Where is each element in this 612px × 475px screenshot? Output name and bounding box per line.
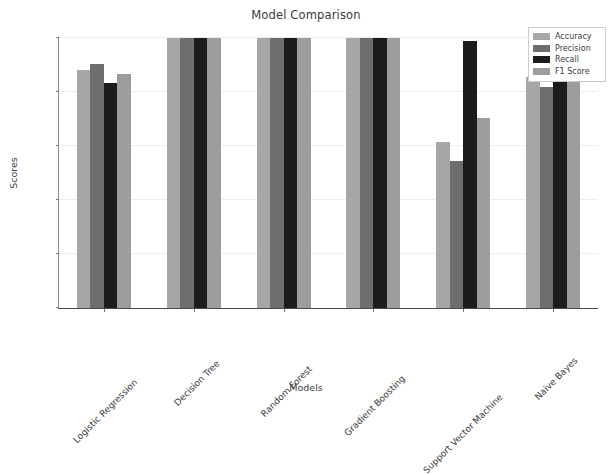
bar [540, 87, 554, 308]
grid-line [59, 37, 598, 38]
grid-line [59, 253, 598, 254]
y-axis-label: Scores [8, 157, 19, 189]
bar [180, 38, 194, 308]
bar [270, 38, 284, 308]
x-tick-mark [373, 309, 374, 313]
bar [346, 38, 360, 308]
bar [450, 161, 464, 308]
bar [77, 70, 91, 308]
bar [194, 38, 208, 308]
y-tick-mark [56, 307, 60, 308]
bar [477, 118, 491, 308]
legend-swatch-icon [533, 68, 550, 75]
x-axis-label: Models [0, 382, 612, 393]
bar [553, 74, 567, 308]
y-tick-mark [56, 253, 60, 254]
bar [387, 38, 401, 308]
legend-item: Accuracy [533, 31, 601, 42]
x-tick-mark [194, 309, 195, 313]
bar [436, 142, 450, 308]
legend-item: Precision [533, 43, 601, 54]
bar [90, 64, 104, 308]
x-tick-mark [553, 309, 554, 313]
grid-line [59, 145, 598, 146]
plot-area: 0.00.20.40.60.81.0 Scores [58, 38, 598, 309]
bar [117, 74, 131, 308]
bar [463, 41, 477, 308]
legend-item: F1 Score [533, 66, 601, 77]
legend-label: F1 Score [555, 66, 590, 77]
x-tick-mark [104, 309, 105, 313]
legend-label: Recall [555, 54, 579, 65]
legend-swatch-icon [533, 56, 550, 63]
bar [104, 83, 118, 308]
bar [373, 38, 387, 308]
chart-title: Model Comparison [0, 8, 612, 22]
grid-line [59, 199, 598, 200]
x-tick-label: Support Vector Machine [422, 392, 505, 475]
grid-line [59, 91, 598, 92]
y-tick-mark [56, 37, 60, 38]
x-tick-mark [284, 309, 285, 313]
x-tick-mark [463, 309, 464, 313]
y-tick-mark [56, 145, 60, 146]
bar [284, 38, 298, 308]
x-tick-label: Naive Bayes [533, 355, 579, 401]
bar [257, 38, 271, 308]
y-tick-mark [56, 199, 60, 200]
bar [526, 77, 540, 308]
bar [567, 80, 581, 308]
legend-swatch-icon [533, 45, 550, 52]
legend-swatch-icon [533, 33, 550, 40]
legend-label: Accuracy [555, 31, 592, 42]
chart-legend: AccuracyPrecisionRecallF1 Score [528, 27, 606, 82]
bar [360, 38, 374, 308]
legend-label: Precision [555, 43, 591, 54]
bar [297, 38, 311, 308]
bar [207, 38, 221, 308]
bar [167, 38, 181, 308]
legend-item: Recall [533, 54, 601, 65]
y-tick-mark [56, 91, 60, 92]
